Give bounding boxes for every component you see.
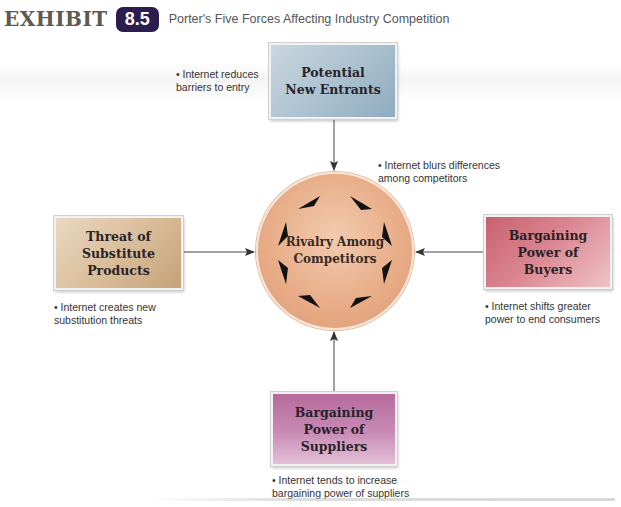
potential-new-entrants-note: • Internet reduces barriers to entry <box>176 68 258 94</box>
source-footer-line <box>150 498 615 501</box>
bargaining-power-suppliers-box: Bargaining Power of Suppliers <box>271 392 397 466</box>
threat-of-substitutes-box: Threat of Substitute Products <box>54 216 183 290</box>
threat-of-substitutes-label: Threat of Substitute Products <box>82 228 155 279</box>
rivalry-label: Rivalry Among Competitors <box>258 174 412 328</box>
potential-new-entrants-label: Potential New Entrants <box>285 64 380 98</box>
potential-new-entrants-box: Potential New Entrants <box>269 43 397 119</box>
rivalry-among-competitors-circle: Rivalry Among Competitors <box>256 172 414 330</box>
bargaining-power-buyers-label: Bargaining Power of Buyers <box>509 227 588 278</box>
threat-of-substitutes-note: • Internet creates new substitution thre… <box>54 301 156 327</box>
bargaining-power-buyers-box: Bargaining Power of Buyers <box>484 215 612 289</box>
bargaining-power-buyers-note: • Internet shifts greater power to end c… <box>485 300 600 326</box>
bargaining-power-suppliers-label: Bargaining Power of Suppliers <box>295 404 374 455</box>
bargaining-power-suppliers-note: • Internet tends to increase bargaining … <box>272 474 409 500</box>
rivalry-note: • Internet blurs differences among compe… <box>378 159 500 185</box>
